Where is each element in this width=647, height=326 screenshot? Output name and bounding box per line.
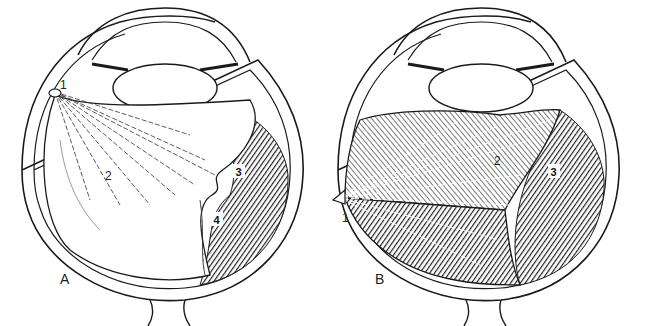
eye-illustration: 1 2 3 4 A 1 <box>0 0 647 326</box>
annotation-b-3: 3 <box>551 166 557 178</box>
panel-a: 1 2 3 4 A <box>22 8 303 326</box>
panel-label-a: A <box>60 271 70 287</box>
panel-label-b: B <box>375 271 384 287</box>
annotation-a-3: 3 <box>236 166 242 178</box>
annotation-a-4: 4 <box>214 214 221 226</box>
annotation-a-2: 2 <box>105 169 112 183</box>
panel-b: 1 2 3 B <box>333 8 619 326</box>
annotation-a-1: 1 <box>60 78 67 92</box>
annotation-b-2: 2 <box>494 154 501 168</box>
annotation-b-1: 1 <box>342 211 349 225</box>
